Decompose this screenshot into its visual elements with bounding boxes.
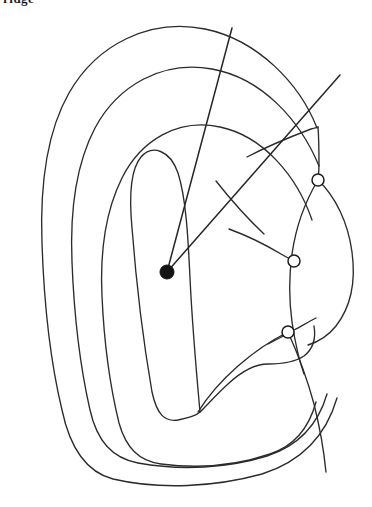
ridge-inner-loop (131, 150, 200, 420)
ray-line-group (167, 28, 340, 272)
core-point (160, 265, 174, 279)
ridge-third-contour (102, 125, 316, 466)
ridge-diagram-canvas (0, 0, 372, 507)
intersection-marker-1 (312, 174, 324, 186)
ridge-arc-upper-right-outer (308, 180, 353, 345)
fingerprint-ridge-figure: ridge (0, 0, 372, 507)
ridge-ending-left-of-marker2 (229, 229, 294, 261)
intersection-marker-2 (288, 255, 300, 267)
intersection-marker-3 (282, 326, 294, 338)
core-point-group (160, 265, 174, 279)
ridge-bracket-down (318, 127, 319, 180)
ridge-line-group (42, 26, 354, 485)
ridge-inner-right-arm (200, 326, 315, 412)
